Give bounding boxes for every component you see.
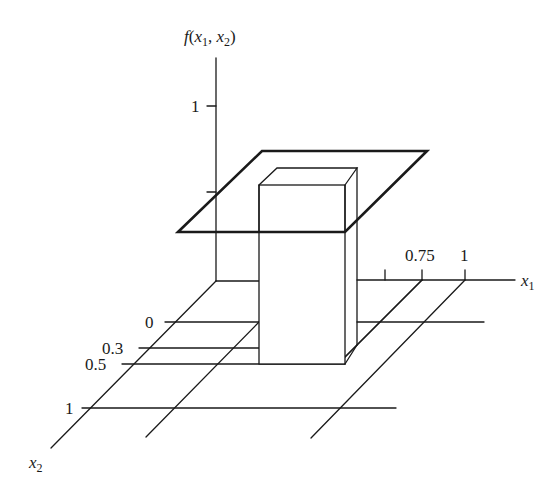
- x1-axis-label: x1: [520, 271, 535, 293]
- box-front-face: [259, 185, 345, 364]
- x1-tick-label-0.75: 0.75: [405, 246, 435, 265]
- x2-tick-label-0: 0: [145, 313, 154, 332]
- z-axis-label: f(x1, x2): [184, 27, 236, 49]
- diagram-canvas: f(x1, x2) 1 0.75 1 x1 0 0.3 0.5 1 x2: [0, 0, 560, 496]
- diag-box: [146, 322, 259, 437]
- x2-axis-label: x2: [28, 453, 43, 475]
- diagram-svg: f(x1, x2) 1 0.75 1 x1 0 0.3 0.5 1 x2: [0, 0, 560, 496]
- x2-tick-label-1: 1: [65, 399, 74, 418]
- box-top-face: [259, 168, 357, 185]
- x1-tick-label-1: 1: [460, 246, 469, 265]
- z-tick-label-1: 1: [191, 97, 200, 116]
- x2-tick-label-0.5: 0.5: [85, 355, 106, 374]
